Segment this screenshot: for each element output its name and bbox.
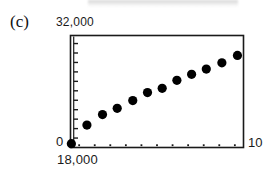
- data-point-series: [67, 51, 242, 148]
- data-point-8: [187, 70, 196, 79]
- data-point-6: [158, 84, 167, 93]
- data-point-10: [217, 58, 226, 67]
- plot-frame: [71, 36, 244, 148]
- x-tick-10: [234, 144, 236, 146]
- data-point-5: [143, 88, 152, 97]
- data-point-9: [202, 65, 211, 74]
- x-tick-3: [125, 144, 127, 146]
- x-tick-0: [78, 144, 80, 146]
- data-point-1: [82, 121, 91, 130]
- x-tick-1: [94, 144, 96, 146]
- x-tick-9: [218, 144, 220, 146]
- data-point-2: [98, 110, 107, 119]
- scatter-plot: [0, 0, 275, 174]
- data-point-3: [113, 104, 122, 113]
- x-tick-4: [141, 144, 143, 146]
- data-point-0: [67, 139, 76, 148]
- x-tick-5: [156, 144, 158, 146]
- x-tick-7: [187, 144, 189, 146]
- figure-panel-c: (c) 32,000 0 18,000 10: [0, 0, 275, 174]
- data-point-11: [233, 51, 242, 60]
- x-tick-6: [172, 144, 174, 146]
- y-axis-ticks: [74, 44, 78, 139]
- axis-frame: [71, 36, 244, 148]
- data-point-4: [128, 96, 137, 105]
- data-point-7: [172, 76, 181, 85]
- x-tick-2: [109, 144, 111, 146]
- x-axis-ticks: [78, 144, 236, 146]
- x-tick-8: [203, 144, 205, 146]
